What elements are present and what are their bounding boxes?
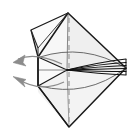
origami-diagram-root: [0, 0, 135, 135]
origami-figure: [0, 0, 135, 135]
